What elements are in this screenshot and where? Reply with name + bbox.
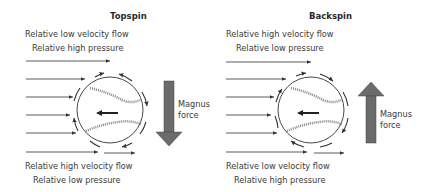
force-label-line1: Magnus (178, 99, 210, 110)
backspin-panel: Backspin Relative high velocity flow Rel… (214, 0, 428, 192)
backspin-bottom-flow-label: Relative low velocity flow (226, 161, 330, 171)
backspin-bottom-pressure-label: Relative high pressure (234, 175, 325, 185)
topspin-bottom-flow-label: Relative high velocity flow (25, 161, 133, 171)
force-label-line1: Magnus (380, 109, 412, 120)
topspin-bottom-pressure-label: Relative low pressure (33, 175, 121, 185)
backspin-force-label: Magnus force (380, 109, 412, 130)
baseball-icon (77, 77, 143, 143)
force-label-line2: force (178, 110, 210, 121)
baseball-icon (278, 77, 344, 143)
topspin-panel: Topspin Relative low velocity flow Relat… (0, 0, 214, 192)
force-label-line2: force (380, 120, 412, 131)
topspin-force-label: Magnus force (178, 99, 210, 120)
